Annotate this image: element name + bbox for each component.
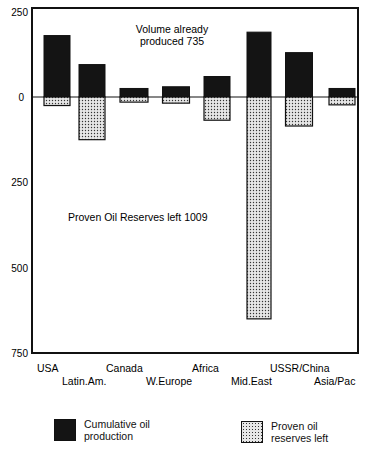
x-category-label: Asia/Pac (314, 375, 355, 387)
bar-production (163, 87, 190, 97)
bar-group-usa (44, 36, 70, 106)
annotation-produced-line1: Volume already (136, 23, 209, 35)
annotation-reserves: Proven Oil Reserves left 1009 (68, 211, 208, 223)
annotation-produced-line2: produced 735 (140, 35, 204, 47)
legend-label-production-2: production (84, 430, 150, 442)
y-tick-label: 0 (18, 92, 24, 103)
legend-label-reserves-1: Proven oil (271, 420, 328, 432)
bar-production (286, 53, 313, 97)
x-category-label: W.Europe (146, 375, 192, 387)
bar-reserves (286, 97, 313, 126)
legend-swatch-production (54, 419, 76, 441)
bar-reserves (163, 97, 190, 103)
bar-group-w-europe (163, 87, 190, 103)
y-tick-label: 500 (11, 263, 28, 274)
bar-production (44, 36, 70, 97)
legend-swatch-reserves (241, 421, 263, 443)
x-axis-labels: USALatin.Am.CanadaW.EuropeAfricaMid.East… (37, 362, 355, 387)
legend-production: Cumulative oil production (54, 418, 150, 442)
x-category-label: Latin.Am. (62, 375, 106, 387)
bar-reserves (329, 97, 355, 105)
bar-production (247, 32, 271, 97)
y-tick-label: 250 (11, 7, 28, 18)
legend-reserves: Proven oil reserves left (241, 420, 328, 444)
bar-group-mid-east (247, 32, 271, 319)
x-category-label: USA (37, 362, 59, 374)
x-category-label: USSR/China (270, 362, 330, 374)
bar-production (79, 65, 105, 97)
x-category-label: Mid.East (231, 375, 272, 387)
bar-reserves (204, 97, 230, 120)
bars (44, 32, 355, 319)
bar-group-ussr-china (286, 53, 313, 126)
bar-production (329, 88, 355, 97)
y-tick-label: 250 (11, 177, 28, 188)
bar-production (204, 77, 230, 97)
bar-group-africa (204, 77, 230, 121)
oil-chart: 2500250500750 USALatin.Am.CanadaW.Europe… (0, 0, 370, 400)
bar-reserves (44, 97, 70, 106)
bar-reserves (79, 97, 105, 140)
bar-reserves (120, 97, 148, 102)
bar-group-canada (120, 88, 148, 102)
legend-label-reserves-2: reserves left (271, 432, 328, 444)
x-category-label: Africa (192, 362, 219, 374)
bar-group-asia-pac (329, 88, 355, 104)
x-category-label: Canada (106, 362, 143, 374)
y-tick-label: 750 (11, 348, 28, 359)
y-axis: 2500250500750 (11, 7, 28, 359)
legend-label-production-1: Cumulative oil (84, 418, 150, 430)
bar-production (120, 88, 148, 97)
bar-group-latin-am- (79, 65, 105, 140)
bar-reserves (247, 97, 271, 319)
